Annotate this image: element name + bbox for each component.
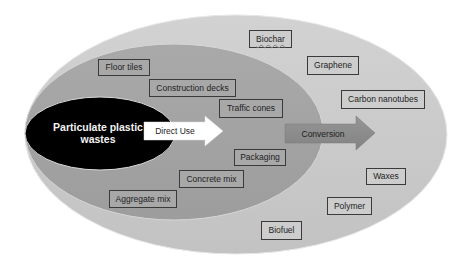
item-traffic-cones: Traffic cones xyxy=(219,99,283,118)
conversion-label: Conversion xyxy=(287,124,359,143)
item-graphene: Graphene xyxy=(307,56,359,75)
item-label: Aggregate mix xyxy=(116,195,171,204)
item-label: Waxes xyxy=(373,172,399,181)
item-floor-tiles: Floor tiles xyxy=(98,59,150,76)
item-label: Graphene xyxy=(314,61,352,70)
item-label: Construction decks xyxy=(156,84,228,93)
item-label: Polymer xyxy=(334,202,365,211)
item-packaging: Packaging xyxy=(234,149,286,166)
item-label: Traffic cones xyxy=(227,104,275,113)
core-label-line2: wastes xyxy=(40,133,156,145)
item-polymer: Polymer xyxy=(327,197,372,215)
item-label: Concrete mix xyxy=(186,175,236,184)
item-concrete-mix: Concrete mix xyxy=(179,170,244,188)
item-label: Biofuel xyxy=(269,226,295,235)
item-label: Biochar xyxy=(256,35,285,44)
item-carbon-nanotubes: Carbon nanotubes xyxy=(341,90,425,109)
plastic-waste-diagram: Particulate plastic wastes Direct Use Co… xyxy=(0,0,468,268)
core-label: Particulate plastic wastes xyxy=(40,121,156,145)
item-aggregate-mix: Aggregate mix xyxy=(109,190,177,208)
item-label: Carbon nanotubes xyxy=(348,95,418,104)
item-label: Packaging xyxy=(240,153,280,162)
direct-use-label: Direct Use xyxy=(146,122,204,140)
item-waxes: Waxes xyxy=(366,168,406,185)
core-label-line1: Particulate plastic xyxy=(40,121,156,133)
item-label: Floor tiles xyxy=(106,63,143,72)
item-biofuel: Biofuel xyxy=(261,221,302,240)
item-construction-decks: Construction decks xyxy=(149,79,236,97)
item-biochar: Biochar xyxy=(249,30,292,48)
